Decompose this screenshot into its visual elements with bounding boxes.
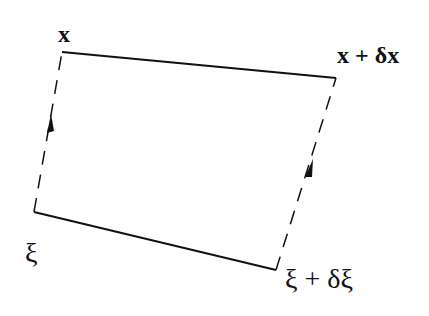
left-arrow-icon: [47, 114, 54, 133]
label-xi: ξ: [25, 237, 37, 268]
label-x-plus-dx: x + δx: [337, 42, 399, 68]
right-arrow-icon: [305, 159, 313, 177]
diagram-canvas: x x + δx ξ ξ + δξ: [0, 0, 429, 316]
bottom-edge: [34, 212, 276, 270]
top-edge: [62, 52, 336, 78]
label-xi-plus-dxi: ξ + δξ: [285, 263, 353, 294]
right-edge: [276, 78, 336, 270]
label-x: x: [58, 21, 70, 47]
